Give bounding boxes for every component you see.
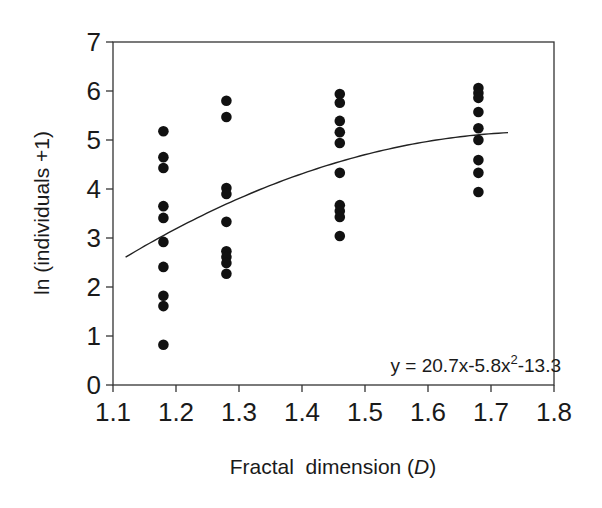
x-tick-label: 1.6 xyxy=(410,397,446,427)
data-point xyxy=(335,212,346,223)
x-tick-label: 1.7 xyxy=(473,397,509,427)
data-point xyxy=(221,189,232,200)
data-point xyxy=(158,213,169,224)
x-tick-label: 1.1 xyxy=(95,397,131,427)
data-point xyxy=(335,127,346,138)
x-tick-label: 1.4 xyxy=(284,397,320,427)
x-tick-label: 1.8 xyxy=(536,397,572,427)
data-point xyxy=(473,155,484,166)
y-tick-label: 2 xyxy=(87,272,101,302)
data-point xyxy=(158,152,169,163)
data-point xyxy=(473,168,484,179)
data-point xyxy=(158,291,169,302)
data-point xyxy=(335,138,346,149)
data-point xyxy=(158,126,169,137)
y-axis-label: ln (individuals +1) xyxy=(30,131,53,295)
y-tick-label: 3 xyxy=(87,223,101,253)
data-point xyxy=(335,97,346,108)
data-point xyxy=(473,187,484,198)
data-point xyxy=(158,163,169,174)
data-point xyxy=(158,340,169,351)
y-tick-label: 6 xyxy=(87,76,101,106)
y-tick-label: 1 xyxy=(87,321,101,351)
data-point xyxy=(473,135,484,146)
data-point xyxy=(158,301,169,312)
data-point xyxy=(221,96,232,107)
y-tick-label: 7 xyxy=(87,27,101,57)
x-tick-label: 1.2 xyxy=(158,397,194,427)
data-point xyxy=(473,93,484,104)
data-point xyxy=(335,231,346,242)
data-point xyxy=(335,116,346,127)
data-point xyxy=(335,168,346,179)
x-axis-label: Fractal dimension (D) xyxy=(230,455,437,478)
data-point xyxy=(158,237,169,248)
y-tick-label: 4 xyxy=(87,174,101,204)
data-point xyxy=(221,268,232,279)
data-point xyxy=(221,112,232,123)
x-tick-label: 1.3 xyxy=(221,397,257,427)
equation-annotation: y = 20.7x-5.8x2-13.3 xyxy=(391,352,561,376)
data-point xyxy=(158,201,169,212)
data-point xyxy=(473,107,484,118)
data-point xyxy=(221,217,232,228)
y-tick-label: 0 xyxy=(87,370,101,400)
scatter-chart: 01234567 1.11.21.31.41.51.61.71.8 y = 20… xyxy=(0,0,602,508)
data-point xyxy=(158,262,169,273)
y-tick-label: 5 xyxy=(87,125,101,155)
data-point xyxy=(221,258,232,269)
data-point xyxy=(473,123,484,134)
x-tick-label: 1.5 xyxy=(347,397,383,427)
